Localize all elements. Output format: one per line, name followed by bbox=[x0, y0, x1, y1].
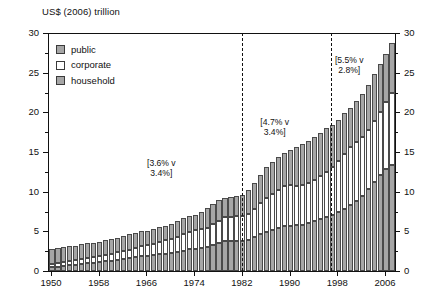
bar-column bbox=[234, 196, 239, 271]
x-tick-label: 1950 bbox=[29, 278, 73, 288]
bar-column bbox=[205, 208, 210, 271]
bar-segment-public bbox=[121, 236, 126, 251]
x-tick bbox=[242, 271, 243, 276]
bar-segment-household bbox=[318, 219, 323, 271]
y-minor-tick-left bbox=[45, 132, 48, 133]
x-tick bbox=[194, 271, 195, 276]
bar-segment-household bbox=[348, 205, 353, 271]
bar-segment-public bbox=[389, 43, 394, 93]
bar-segment-household bbox=[246, 240, 251, 271]
bar-segment-public bbox=[205, 208, 210, 227]
bar-segment-public bbox=[258, 175, 263, 203]
bar-segment-corporate bbox=[342, 154, 347, 209]
bar-segment-corporate bbox=[383, 102, 388, 169]
y-minor-tick-left bbox=[45, 53, 48, 54]
bar-segment-household bbox=[67, 265, 72, 271]
bar-segment-public bbox=[139, 231, 144, 246]
bar-segment-corporate bbox=[228, 217, 233, 241]
bar-segment-household bbox=[139, 256, 144, 271]
y-tick-right bbox=[395, 33, 400, 34]
bar-column bbox=[336, 120, 341, 271]
bar-column bbox=[306, 141, 311, 271]
bar-segment-corporate bbox=[366, 130, 371, 190]
bar-segment-corporate bbox=[181, 234, 186, 250]
bar-column bbox=[181, 218, 186, 271]
bar-segment-public bbox=[294, 147, 299, 186]
bar-column bbox=[258, 175, 263, 271]
bar-column bbox=[288, 150, 293, 271]
bar-segment-corporate bbox=[91, 257, 96, 263]
bar-segment-public bbox=[73, 246, 78, 261]
bar-segment-household bbox=[163, 254, 168, 271]
chart-container: US$ (2006) trillion 051015202530 0510152… bbox=[0, 0, 431, 307]
y-tick-label-left: 30 bbox=[13, 28, 39, 38]
bar-segment-corporate bbox=[61, 262, 66, 266]
bar-column bbox=[300, 144, 305, 271]
bar-column bbox=[389, 43, 394, 271]
bar-segment-household bbox=[288, 226, 293, 271]
bar-column bbox=[246, 190, 251, 271]
bar-segment-corporate bbox=[222, 217, 227, 241]
bar-segment-household bbox=[389, 165, 394, 271]
bar-column bbox=[115, 238, 120, 271]
legend-item-corporate: corporate bbox=[56, 60, 115, 71]
y-minor-tick-right bbox=[395, 251, 398, 252]
bar-segment-corporate bbox=[133, 248, 138, 257]
bar-segment-household bbox=[234, 241, 239, 271]
y-minor-tick-left bbox=[45, 212, 48, 213]
bar-segment-public bbox=[372, 74, 377, 121]
bar-segment-corporate bbox=[318, 176, 323, 219]
bar-segment-public bbox=[348, 108, 353, 148]
bar-segment-corporate bbox=[312, 180, 317, 221]
bar-column bbox=[342, 113, 347, 271]
y-minor-tick-right bbox=[395, 172, 398, 173]
bar-segment-household bbox=[294, 225, 299, 271]
bar-segment-household bbox=[210, 245, 215, 271]
bar-segment-public bbox=[145, 231, 150, 245]
legend-swatch-public-icon bbox=[56, 45, 65, 54]
bar-segment-household bbox=[205, 247, 210, 271]
bar-column bbox=[97, 242, 102, 271]
bar-segment-corporate bbox=[175, 237, 180, 252]
bar-segment-public bbox=[49, 249, 54, 264]
bar-column bbox=[157, 227, 162, 271]
bar-column bbox=[282, 153, 287, 271]
bar-segment-corporate bbox=[55, 263, 60, 266]
bar-segment-public bbox=[181, 218, 186, 234]
growth-rate-annotation: [4.7% v 3.4%] bbox=[235, 117, 315, 138]
bar-segment-household bbox=[157, 254, 162, 271]
bar-column bbox=[85, 243, 90, 271]
bar-segment-household bbox=[216, 243, 221, 271]
bar-segment-public bbox=[187, 216, 192, 232]
bar-segment-household bbox=[264, 232, 269, 271]
bar-column bbox=[312, 137, 317, 271]
bar-segment-public bbox=[324, 128, 329, 171]
x-tick bbox=[51, 271, 52, 276]
bar-segment-public bbox=[288, 150, 293, 185]
y-tick-right bbox=[395, 112, 400, 113]
bar-segment-corporate bbox=[348, 147, 353, 205]
bar-segment-public bbox=[210, 204, 215, 224]
y-tick-label-right: 0 bbox=[404, 266, 430, 276]
bar-segment-household bbox=[55, 267, 60, 271]
bar-segment-corporate bbox=[67, 261, 72, 265]
legend-label-public: public bbox=[71, 45, 96, 55]
bar-column bbox=[163, 226, 168, 271]
bar-segment-household bbox=[199, 248, 204, 271]
bar-column bbox=[187, 216, 192, 271]
bar-column bbox=[193, 215, 198, 271]
bar-segment-household bbox=[282, 226, 287, 271]
bar-segment-public bbox=[115, 238, 120, 253]
y-minor-tick-right bbox=[395, 53, 398, 54]
x-tick bbox=[337, 271, 338, 276]
growth-rate-annotation: [3.6% v 3.4%] bbox=[121, 158, 201, 179]
x-tick bbox=[99, 271, 100, 276]
bar-column bbox=[121, 236, 126, 271]
y-tick-label-right: 20 bbox=[404, 107, 430, 117]
bar-segment-corporate bbox=[378, 112, 383, 175]
bar-segment-public bbox=[300, 144, 305, 185]
bar-segment-corporate bbox=[145, 245, 150, 256]
chart-legend: public corporate household bbox=[56, 44, 115, 91]
x-tick-label: 1974 bbox=[172, 278, 216, 288]
bar-column bbox=[73, 246, 78, 271]
